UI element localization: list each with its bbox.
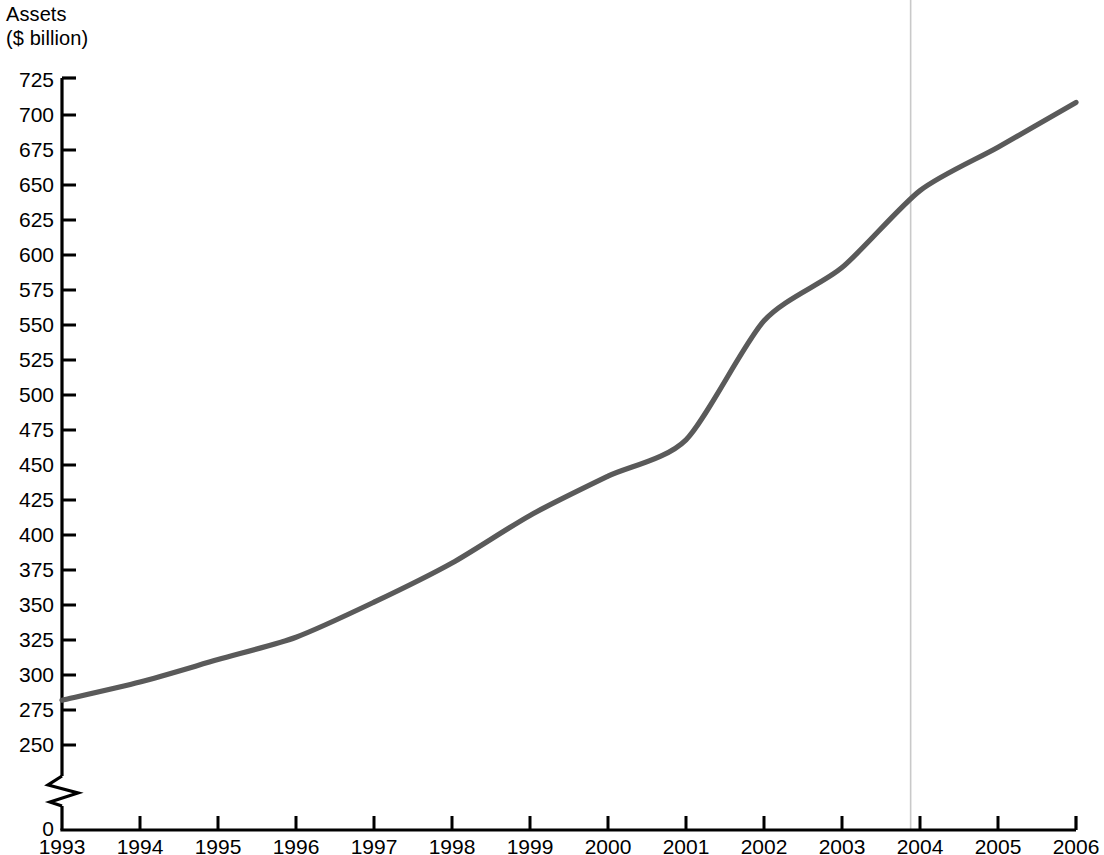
y-axis-ticks [62,115,76,745]
x-tick-label: 1998 [415,836,489,855]
y-tick-label: 250 [6,734,54,755]
y-tick-label: 550 [6,314,54,335]
y-tick-label: 425 [6,489,54,510]
y-tick-label: 600 [6,244,54,265]
y-tick-label: 375 [6,559,54,580]
y-tick-label: 400 [6,524,54,545]
y-tick-label: 575 [6,279,54,300]
x-tick-label: 2005 [961,836,1035,855]
x-tick-label: 1997 [337,836,411,855]
y-tick-label: 475 [6,419,54,440]
x-tick-label: 2003 [805,836,879,855]
y-tick-label: 625 [6,209,54,230]
x-axis-ticks [140,816,998,830]
y-tick-label: 350 [6,594,54,615]
x-tick-label: 2000 [571,836,645,855]
y-tick-label: 700 [6,104,54,125]
data-series [62,102,1076,700]
x-tick-label: 2002 [727,836,801,855]
y-tick-label: 675 [6,139,54,160]
x-tick-label: 1996 [259,836,333,855]
y-tick-label: 725 [6,69,54,90]
x-tick-label: 1994 [103,836,177,855]
x-tick-label: 1993 [25,836,99,855]
x-tick-label: 1999 [493,836,567,855]
y-tick-label: 300 [6,664,54,685]
y-tick-label: 325 [6,629,54,650]
y-tick-label: 500 [6,384,54,405]
y-tick-label: 525 [6,349,54,370]
y-tick-label: 650 [6,174,54,195]
x-tick-label: 2004 [883,836,957,855]
y-tick-label: 275 [6,699,54,720]
x-tick-label: 2006 [1039,836,1104,855]
x-tick-label: 1995 [181,836,255,855]
y-tick-label: 450 [6,454,54,475]
x-tick-label: 2001 [649,836,723,855]
